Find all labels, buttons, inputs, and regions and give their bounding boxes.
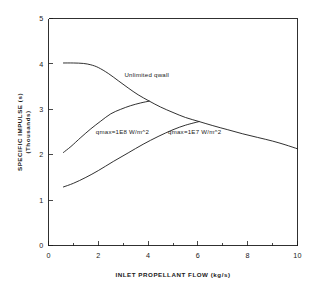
y-axis-title: SPECIFIC IMPULSE (s) — [16, 93, 23, 171]
curve-annotations: Unlimited qwallqmax=1E8 W/m^2qmax=1E7 W/… — [96, 71, 222, 135]
y-axis-tick-labels: 012345 — [39, 14, 43, 250]
y-tick-label: 3 — [39, 105, 43, 114]
x-axis-tick-labels: 0246810 — [46, 251, 301, 260]
x-tick-label: 10 — [293, 251, 301, 260]
x-axis-ticks — [49, 241, 298, 246]
y-axis-subtitle: (Thousands) — [24, 110, 31, 153]
y-tick-label: 5 — [39, 14, 43, 23]
chart-svg: 0246810 012345 Unlimited qwallqmax=1E8 W… — [0, 0, 317, 296]
x-tick-label: 8 — [246, 251, 250, 260]
data-curve — [63, 63, 297, 149]
data-curves — [63, 63, 297, 187]
y-tick-label: 2 — [39, 150, 43, 159]
data-curve — [63, 101, 149, 152]
x-axis-title: INLET PROPELLANT FLOW (kg/s) — [115, 271, 230, 278]
curve-label: qmax=1E8 W/m^2 — [96, 128, 150, 135]
curve-label: Unlimited qwall — [124, 71, 169, 78]
curve-label: qmax=1E7 W/m^2 — [168, 128, 222, 135]
chart-figure: 0246810 012345 Unlimited qwallqmax=1E8 W… — [0, 0, 317, 296]
y-tick-label: 1 — [39, 196, 43, 205]
y-axis-ticks — [49, 19, 54, 246]
y-tick-label: 0 — [39, 241, 43, 250]
x-tick-label: 0 — [46, 251, 50, 260]
x-tick-label: 2 — [96, 251, 100, 260]
x-tick-label: 6 — [196, 251, 200, 260]
y-tick-label: 4 — [39, 60, 43, 69]
x-tick-label: 4 — [146, 251, 150, 260]
